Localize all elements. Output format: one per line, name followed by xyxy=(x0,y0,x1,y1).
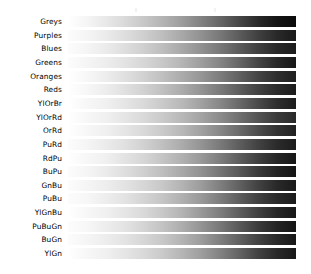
colormap-gradient-bar xyxy=(68,221,296,232)
colormap-gradient-bar xyxy=(68,30,296,41)
colormap-label: YlGnBu xyxy=(0,207,62,218)
colormap-row: YlGn xyxy=(0,248,311,259)
colormap-row: PuRd xyxy=(0,139,311,150)
colormap-gradient-bar xyxy=(68,153,296,164)
colormap-row: BuGn xyxy=(0,234,311,245)
colormap-gradient-bar xyxy=(68,43,296,54)
colormap-gradient-bar xyxy=(68,57,296,68)
colormap-label: Greens xyxy=(0,57,62,68)
colormap-gradient-bar xyxy=(68,180,296,191)
colormap-row: GnBu xyxy=(0,180,311,191)
colormap-label: OrRd xyxy=(0,125,62,136)
colormap-reference-figure: GreysPurplesBluesGreensOrangesRedsYlOrBr… xyxy=(0,0,311,274)
colormap-row: PuBuGn xyxy=(0,221,311,232)
colormap-gradient-bar xyxy=(68,139,296,150)
colormap-row: Purples xyxy=(0,30,311,41)
colormap-label: Reds xyxy=(0,84,62,95)
render-artifact-mark xyxy=(214,8,216,12)
colormap-label: RdPu xyxy=(0,153,62,164)
colormap-row: RdPu xyxy=(0,153,311,164)
colormap-gradient-bar xyxy=(68,84,296,95)
colormap-row: Greys xyxy=(0,16,311,27)
colormap-row: BuPu xyxy=(0,166,311,177)
render-artifact-mark xyxy=(135,8,137,12)
colormap-label: PuRd xyxy=(0,139,62,150)
colormap-label: PuBuGn xyxy=(0,221,62,232)
colormap-label: Blues xyxy=(0,43,62,54)
colormap-row: YlOrBr xyxy=(0,98,311,109)
colormap-label: PuBu xyxy=(0,193,62,204)
colormap-gradient-bar xyxy=(68,98,296,109)
colormap-label: YlOrRd xyxy=(0,112,62,123)
colormap-label: BuPu xyxy=(0,166,62,177)
colormap-gradient-bar xyxy=(68,207,296,218)
colormap-row: YlOrRd xyxy=(0,112,311,123)
colormap-label: BuGn xyxy=(0,234,62,245)
colormap-gradient-bar xyxy=(68,193,296,204)
colormap-gradient-bar xyxy=(68,248,296,259)
colormap-label: Purples xyxy=(0,30,62,41)
colormap-gradient-bar xyxy=(68,112,296,123)
colormap-gradient-bar xyxy=(68,166,296,177)
colormap-label: Greys xyxy=(0,16,62,27)
colormap-label: Oranges xyxy=(0,71,62,82)
colormap-label: YlGn xyxy=(0,248,62,259)
colormap-gradient-bar xyxy=(68,234,296,245)
colormap-row: Greens xyxy=(0,57,311,68)
colormap-row: Blues xyxy=(0,43,311,54)
colormap-row: OrRd xyxy=(0,125,311,136)
colormap-row: Oranges xyxy=(0,71,311,82)
colormap-gradient-bar xyxy=(68,16,296,27)
colormap-row: Reds xyxy=(0,84,311,95)
colormap-label: GnBu xyxy=(0,180,62,191)
colormap-gradient-bar xyxy=(68,125,296,136)
colormap-label: YlOrBr xyxy=(0,98,62,109)
colormap-row: PuBu xyxy=(0,193,311,204)
colormap-gradient-bar xyxy=(68,71,296,82)
colormap-row: YlGnBu xyxy=(0,207,311,218)
